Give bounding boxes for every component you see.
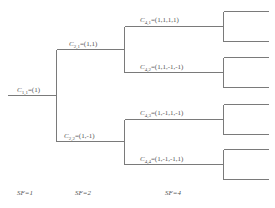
tree-lines	[0, 0, 275, 208]
spreading-factor-label-sf1: SF=1	[17, 189, 33, 197]
code-value: =(1,1,-1,-1)	[151, 63, 184, 71]
spreading-factor-label-sf4: SF=4	[165, 189, 181, 197]
code-value: =(1,-1)	[75, 132, 95, 140]
code-value: =(1)	[28, 86, 40, 94]
spreading-factor-label-sf2: SF=2	[75, 189, 91, 197]
code-value: =(1,-1,1,-1)	[151, 109, 184, 117]
node-label-c11: C1,1=(1)	[17, 86, 40, 97]
node-label-c42: C4,2=(1,1,-1,-1)	[140, 63, 183, 74]
node-label-c22: C2,2=(1,-1)	[64, 132, 95, 143]
node-label-c43: C4,3=(1,-1,1,-1)	[140, 109, 183, 120]
code-value: =(1,1,1,1)	[151, 16, 179, 24]
node-label-c44: C4,4=(1,-1,-1,1)	[140, 155, 183, 166]
code-value: =(1,-1,-1,1)	[151, 155, 184, 163]
node-label-c41: C4,1=(1,1,1,1)	[140, 16, 179, 27]
code-value: =(1,1)	[80, 40, 97, 48]
node-label-c21: C2,1=(1,1)	[69, 40, 97, 51]
